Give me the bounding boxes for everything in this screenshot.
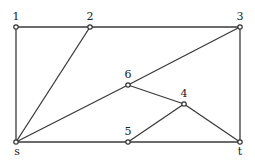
node-label-5: 5: [125, 125, 132, 138]
node-4: [182, 102, 186, 106]
edge-6-3: [128, 27, 240, 85]
edge-s-6: [16, 85, 128, 142]
edge-2-s: [16, 27, 90, 142]
node-label-s: s: [14, 145, 20, 158]
edge-4-t: [184, 104, 240, 142]
edge-5-4: [128, 104, 184, 142]
node-label-3: 3: [237, 10, 244, 23]
node-2: [88, 25, 92, 29]
node-s: [14, 140, 18, 144]
node-label-2: 2: [87, 10, 94, 23]
node-label-6: 6: [125, 68, 132, 81]
graph-diagram: 123645st: [0, 0, 255, 166]
edge-6-4: [128, 85, 184, 104]
node-3: [238, 25, 242, 29]
node-label-4: 4: [181, 87, 188, 100]
node-label-t: t: [238, 145, 243, 158]
node-t: [238, 140, 242, 144]
node-6: [126, 83, 130, 87]
node-5: [126, 140, 130, 144]
node-label-1: 1: [13, 10, 20, 23]
node-1: [14, 25, 18, 29]
